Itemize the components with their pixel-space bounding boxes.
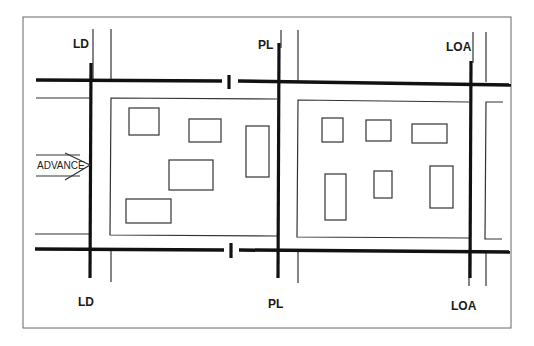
top-road-west (36, 80, 222, 81)
pl-top-label: PL (258, 38, 273, 52)
ld-top-label: LD (73, 37, 89, 51)
pl-bottom-label: PL (268, 297, 283, 311)
diagram-frame (23, 17, 511, 328)
bottom-road-west (35, 249, 224, 250)
line-of-departure (90, 63, 91, 278)
ld-bottom-label: LD (78, 295, 94, 309)
advance-label: ADVANCE (37, 160, 85, 171)
loa-bottom-label: LOA (451, 299, 477, 313)
phase-line (278, 43, 279, 278)
limit-of-advance (470, 61, 471, 278)
loa-top-label: LOA (446, 40, 472, 54)
tactical-diagram: ADVANCE LD PL LOA LD PL LOA (0, 0, 534, 346)
